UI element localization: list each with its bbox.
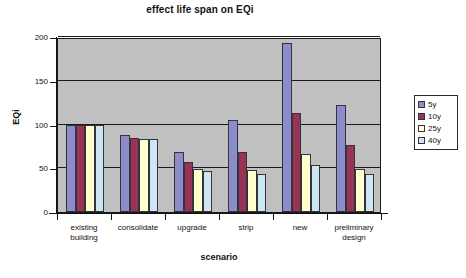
bar-existing-building-10y[interactable] bbox=[76, 125, 86, 213]
legend-swatch-icon-5y bbox=[418, 101, 425, 108]
bar-upgrade-25y[interactable] bbox=[193, 169, 203, 212]
legend-label-25y: 25y bbox=[428, 125, 441, 133]
bar-new-5y[interactable] bbox=[282, 43, 292, 212]
bar-strip-5y[interactable] bbox=[228, 120, 238, 212]
bar-group-0 bbox=[58, 39, 112, 212]
x-category-label-line: building bbox=[45, 233, 123, 243]
x-axis-title: scenario bbox=[57, 252, 381, 262]
x-tick-2 bbox=[165, 214, 166, 220]
bars-layer bbox=[58, 39, 380, 212]
gridline-200 bbox=[58, 36, 380, 37]
y-tick-50 bbox=[50, 169, 57, 170]
bar-strip-25y[interactable] bbox=[247, 170, 257, 212]
bar-preliminary-design-5y[interactable] bbox=[336, 105, 346, 212]
legend-label-5y: 5y bbox=[428, 101, 436, 109]
bar-consolidate-5y[interactable] bbox=[120, 135, 130, 212]
bar-existing-building-5y[interactable] bbox=[66, 125, 76, 213]
x-category-label-5: preliminarydesign bbox=[315, 223, 393, 243]
y-tick-label-200: 200 bbox=[20, 34, 48, 42]
x-tick-0 bbox=[57, 214, 58, 220]
legend-label-40y: 40y bbox=[428, 137, 441, 145]
y-axis-title: EQi bbox=[11, 97, 21, 137]
y-tick-200 bbox=[50, 38, 57, 39]
bar-preliminary-design-40y[interactable] bbox=[365, 174, 375, 212]
x-tick-1 bbox=[111, 214, 112, 220]
bar-existing-building-40y[interactable] bbox=[95, 125, 105, 213]
x-tick-4 bbox=[273, 214, 274, 220]
chart-legend: 5y10y25y40y bbox=[414, 95, 458, 150]
bar-preliminary-design-10y[interactable] bbox=[346, 145, 356, 212]
chart-title: effect life span on EQi bbox=[0, 4, 400, 15]
x-tick-3 bbox=[219, 214, 220, 220]
legend-swatch-icon-25y bbox=[418, 125, 425, 132]
bar-upgrade-10y[interactable] bbox=[184, 162, 194, 212]
y-tick-0 bbox=[50, 213, 57, 214]
bar-new-25y[interactable] bbox=[301, 154, 311, 212]
bar-new-40y[interactable] bbox=[311, 165, 321, 212]
legend-swatch-icon-10y bbox=[418, 113, 425, 120]
bar-group-2 bbox=[166, 39, 220, 212]
bar-upgrade-5y[interactable] bbox=[174, 152, 184, 212]
plot-area bbox=[57, 38, 381, 213]
bar-group-3 bbox=[220, 39, 274, 212]
bar-consolidate-10y[interactable] bbox=[130, 138, 140, 212]
legend-item-25y[interactable]: 25y bbox=[418, 123, 454, 134]
bar-strip-40y[interactable] bbox=[257, 174, 267, 212]
bar-upgrade-40y[interactable] bbox=[203, 171, 213, 212]
bar-existing-building-25y[interactable] bbox=[85, 125, 95, 213]
legend-item-5y[interactable]: 5y bbox=[418, 99, 454, 110]
legend-label-10y: 10y bbox=[428, 113, 441, 121]
bar-group-1 bbox=[112, 39, 166, 212]
y-tick-150 bbox=[50, 82, 57, 83]
bar-consolidate-25y[interactable] bbox=[139, 139, 149, 213]
bar-preliminary-design-25y[interactable] bbox=[355, 169, 365, 212]
y-tick-label-50: 50 bbox=[20, 165, 48, 173]
bar-consolidate-40y[interactable] bbox=[149, 139, 159, 213]
bar-strip-10y[interactable] bbox=[238, 152, 248, 212]
bar-new-10y[interactable] bbox=[292, 113, 302, 212]
x-category-label-line: design bbox=[315, 233, 393, 243]
x-tick-5 bbox=[327, 214, 328, 220]
x-category-label-line: preliminary bbox=[315, 223, 393, 233]
y-tick-label-0: 0 bbox=[20, 209, 48, 217]
bar-group-4 bbox=[274, 39, 328, 212]
legend-swatch-icon-40y bbox=[418, 137, 425, 144]
y-tick-label-150: 150 bbox=[20, 78, 48, 86]
x-tick-6 bbox=[381, 214, 382, 220]
legend-item-10y[interactable]: 10y bbox=[418, 111, 454, 122]
legend-item-40y[interactable]: 40y bbox=[418, 135, 454, 146]
y-tick-100 bbox=[50, 126, 57, 127]
bar-group-5 bbox=[328, 39, 382, 212]
y-tick-label-100: 100 bbox=[20, 122, 48, 130]
